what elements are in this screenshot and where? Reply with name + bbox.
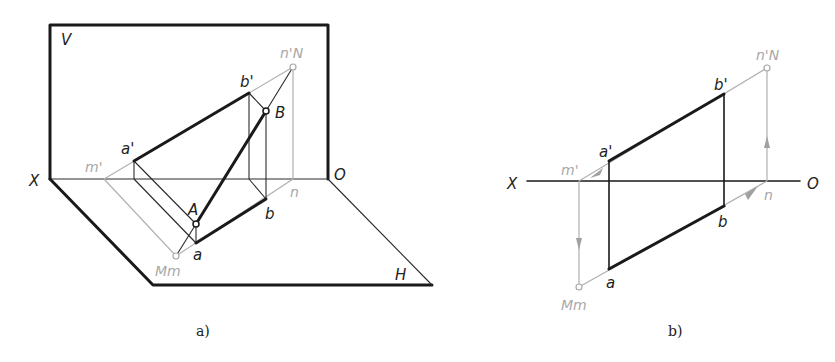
label-Mm-b: Mm [561, 297, 587, 313]
label-axis-o-b: O [807, 175, 819, 193]
caption-a: a) [196, 323, 210, 339]
point-n-prime-N [290, 64, 296, 70]
arrow-right-icon [745, 186, 758, 200]
point-Mm [173, 253, 179, 259]
label-b: b [265, 205, 275, 223]
label-b-b: b [718, 213, 728, 231]
label-a-prime-b: a' [599, 143, 612, 161]
segment-a-prime-b-prime [134, 93, 249, 161]
label-m-prime-b: m' [561, 162, 579, 178]
label-a-prime: a' [121, 140, 134, 158]
segment-a-prime-b-prime-b [609, 94, 724, 161]
point-B [263, 108, 269, 114]
point-Mm-b [576, 284, 582, 290]
label-a-b: a [606, 274, 615, 292]
label-n-prime-N-b: n'N [756, 47, 780, 63]
arrow-up-icon [764, 136, 770, 148]
label-m-prime: m' [85, 159, 103, 175]
figure-b: X O a' b' n'N m' a b n Mm b) [506, 47, 819, 339]
label-Mm: Mm [155, 263, 181, 279]
label-axis-o: O [334, 166, 346, 184]
point-A [193, 221, 199, 227]
figure-a: V H X O a' b' n'N B m' A a b n Mm a) [28, 25, 432, 339]
point-n-prime-N-b [764, 65, 770, 71]
label-n-prime-N: n'N [280, 45, 304, 61]
projector-a-axis-diag [134, 179, 196, 243]
caption-b: b) [668, 323, 682, 339]
label-a: a [193, 246, 202, 264]
label-v-plane: V [61, 31, 73, 49]
label-b-prime-b: b' [714, 76, 728, 94]
label-axis-x-b: X [506, 175, 518, 193]
h-plane-right-edge [328, 179, 432, 285]
label-A: A [187, 201, 198, 219]
label-n-b: n [764, 187, 773, 203]
label-B: B [275, 104, 285, 122]
projector-b-axis-diag [249, 179, 266, 199]
segment-ab-b [609, 206, 724, 269]
arrow-down-icon [576, 238, 582, 250]
h-plane-front-edge [50, 179, 432, 285]
label-axis-x: X [28, 172, 40, 190]
diagram-canvas: V H X O a' b' n'N B m' A a b n Mm a) [0, 0, 835, 362]
projector-a-prime-diag [134, 161, 196, 224]
label-n: n [290, 184, 299, 200]
label-h-plane: H [395, 266, 406, 284]
label-b-prime: b' [240, 73, 254, 91]
